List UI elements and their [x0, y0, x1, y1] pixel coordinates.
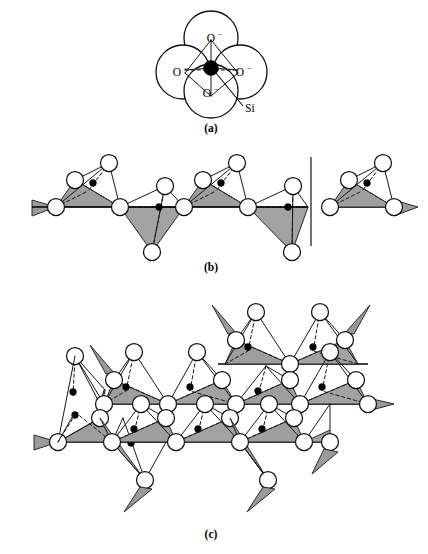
oxygen-apex	[157, 178, 174, 195]
oxygen-right-label: O	[236, 66, 244, 78]
silicon-atom	[319, 384, 326, 391]
silicon-atom	[364, 180, 371, 187]
oxygen-bridge	[296, 434, 313, 451]
silicon-label: Si	[245, 102, 255, 114]
oxygen-bridge	[240, 199, 257, 216]
oxygen-back	[348, 372, 365, 389]
silicon-atom	[245, 344, 252, 351]
panel-label-a: (a)	[204, 122, 218, 135]
oxygen-bridge	[386, 199, 403, 216]
oxygen-back	[337, 332, 354, 349]
silicon-atom	[131, 426, 138, 433]
oxygen-back	[195, 172, 212, 189]
oxygen-back	[341, 172, 358, 189]
oxygen-apex	[229, 155, 246, 172]
oxygen-apex	[312, 304, 329, 321]
oxygen-apex	[197, 396, 214, 413]
oxygen-bridge	[48, 199, 65, 216]
oxygen-top-label: O	[207, 32, 215, 44]
oxygen-bridge	[104, 434, 121, 451]
oxygen-left-label: O	[173, 66, 181, 78]
oxygen-bridge	[322, 434, 339, 451]
oxygen-bridge	[322, 199, 339, 216]
oxygen-apex	[261, 396, 278, 413]
oxygen-bottom-label: O	[203, 87, 211, 99]
silicate-figure: O − O − O − O − Si (a)	[0, 0, 428, 554]
oxygen-bottom-charge: −	[214, 85, 219, 94]
oxygen-back	[228, 332, 245, 349]
oxygen-right-charge: −	[247, 64, 252, 73]
silicon-atom	[310, 344, 317, 351]
oxygen-apex	[248, 304, 265, 321]
oxygen-back	[158, 410, 175, 427]
oxygen-apex	[101, 155, 118, 172]
silicon-atom	[123, 384, 130, 391]
oxygen-back	[106, 372, 123, 389]
oxygen-apex	[133, 396, 150, 413]
oxygen-apex	[322, 344, 339, 361]
figure-canvas: O − O − O − O − Si (a)	[0, 0, 428, 554]
silicon-atom	[90, 180, 97, 187]
oxygen-apex	[285, 178, 302, 195]
oxygen-bridge	[112, 199, 129, 216]
oxygen-back	[144, 244, 161, 261]
oxygen-bridge	[176, 199, 193, 216]
oxygen-apex-down	[260, 472, 277, 489]
oxygen-top-charge: −	[218, 30, 223, 39]
silicon-atom	[218, 180, 225, 187]
silicon-atom	[195, 426, 202, 433]
panel-label-b: (b)	[204, 261, 218, 274]
oxygen-apex-down	[137, 472, 154, 489]
oxygen-apex	[375, 155, 392, 172]
oxygen-back	[214, 372, 231, 389]
oxygen-back	[67, 172, 84, 189]
silicon-atom	[70, 389, 77, 396]
silicon-atom	[255, 388, 262, 395]
oxygen-back	[284, 244, 301, 261]
oxygen-bridge	[282, 356, 299, 373]
oxygen-back	[282, 372, 299, 389]
oxygen-bridge	[232, 434, 249, 451]
silicon-atom	[187, 384, 194, 391]
oxygen-apex	[126, 344, 143, 361]
panel-label-c: (c)	[205, 528, 218, 541]
oxygen-left-charge: −	[184, 64, 189, 73]
oxygen-apex	[189, 344, 206, 361]
oxygen-bridge	[360, 396, 377, 413]
silicon-atom	[259, 426, 266, 433]
oxygen-bridge	[168, 434, 185, 451]
oxygen-back	[286, 410, 303, 427]
